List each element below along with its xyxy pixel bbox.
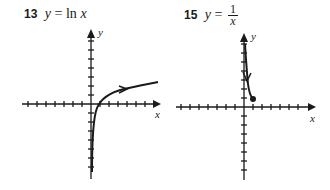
x-axis-label: x xyxy=(309,112,315,124)
x-axis-arrow-icon xyxy=(308,103,316,111)
curve-endpoint-dot xyxy=(250,96,256,102)
y-axis-arrow-icon xyxy=(240,33,248,42)
y-axis-label: y xyxy=(250,30,256,42)
reciprocal-curve xyxy=(245,44,253,99)
graph-reciprocal: x y xyxy=(0,0,330,190)
